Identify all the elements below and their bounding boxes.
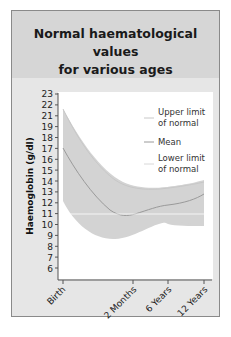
y-tick-label: 8 xyxy=(47,242,53,252)
y-tick-label: 14 xyxy=(42,177,54,187)
y-tick-label: 21 xyxy=(42,111,53,121)
y-tick-label: 22 xyxy=(42,100,53,110)
y-tick-label: 19 xyxy=(42,122,54,132)
y-tick-label: 10 xyxy=(42,220,54,230)
y-tick-label: 17 xyxy=(42,144,53,154)
x-tick-label: 2 Months xyxy=(102,284,139,321)
x-tick-label: 12 Years xyxy=(175,284,209,318)
y-tick-label: 13 xyxy=(42,187,53,197)
y-tick-label: 11 xyxy=(42,209,53,219)
y-tick-label: 15 xyxy=(42,166,53,176)
x-tick-label: 6 Years xyxy=(143,284,173,314)
x-tick-label: Birth xyxy=(45,284,67,306)
legend-label-upper-1: Upper limit xyxy=(158,107,206,117)
y-tick-label: 12 xyxy=(42,198,53,208)
legend-label-upper-2: of normal xyxy=(158,118,199,128)
legend-label-lower-1: Lower limit xyxy=(158,153,206,163)
y-tick-label: 23 xyxy=(42,89,53,99)
x-ticks: Birth 2 Months 6 Years 12 Years xyxy=(45,280,210,321)
chart: 23 22 21 19 18 17 16 15 14 13 12 11 10 9… xyxy=(0,0,231,337)
y-tick-label: 9 xyxy=(47,231,53,241)
y-tick-label: 18 xyxy=(42,133,54,143)
legend-label-lower-2: of normal xyxy=(158,164,199,174)
legend-label-mean: Mean xyxy=(158,137,181,147)
y-tick-label: 16 xyxy=(42,155,54,165)
y-tick-label: 7 xyxy=(47,253,53,263)
y-tick-label: 6 xyxy=(47,264,53,274)
y-axis-label: Haemoglobin (g/dl) xyxy=(25,137,35,235)
y-ticks: 23 22 21 19 18 17 16 15 14 13 12 11 10 9… xyxy=(42,89,58,274)
